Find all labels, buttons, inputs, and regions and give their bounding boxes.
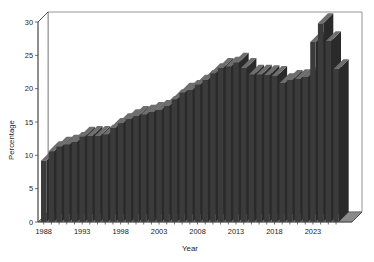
y-tick-label: 10	[25, 151, 33, 160]
x-tick-label: 1993	[74, 227, 90, 236]
y-tick-label: 5	[29, 184, 33, 193]
y-tick-label: 0	[29, 218, 33, 227]
x-tick-label: 2013	[228, 227, 244, 236]
y-axis-title: Percentage	[7, 120, 16, 160]
x-tick-label: 2003	[151, 227, 167, 236]
y-tick-label: 30	[25, 18, 33, 27]
x-tick-label: 1998	[112, 227, 128, 236]
x-tick-label: 1988	[35, 227, 51, 236]
bar	[333, 59, 348, 222]
y-tick-label: 20	[25, 84, 33, 93]
y-tick-label: 15	[25, 118, 33, 127]
x-tick-label: 2023	[305, 227, 321, 236]
y-tick-label: 25	[25, 51, 33, 60]
bar-chart-figure: 0510152025301988199319982003200820132018…	[0, 0, 374, 262]
x-axis-title: Year	[182, 244, 198, 253]
x-tick-label: 2018	[266, 227, 282, 236]
chart-canvas: 0510152025301988199319982003200820132018…	[0, 0, 374, 262]
x-tick-label: 2008	[189, 227, 205, 236]
